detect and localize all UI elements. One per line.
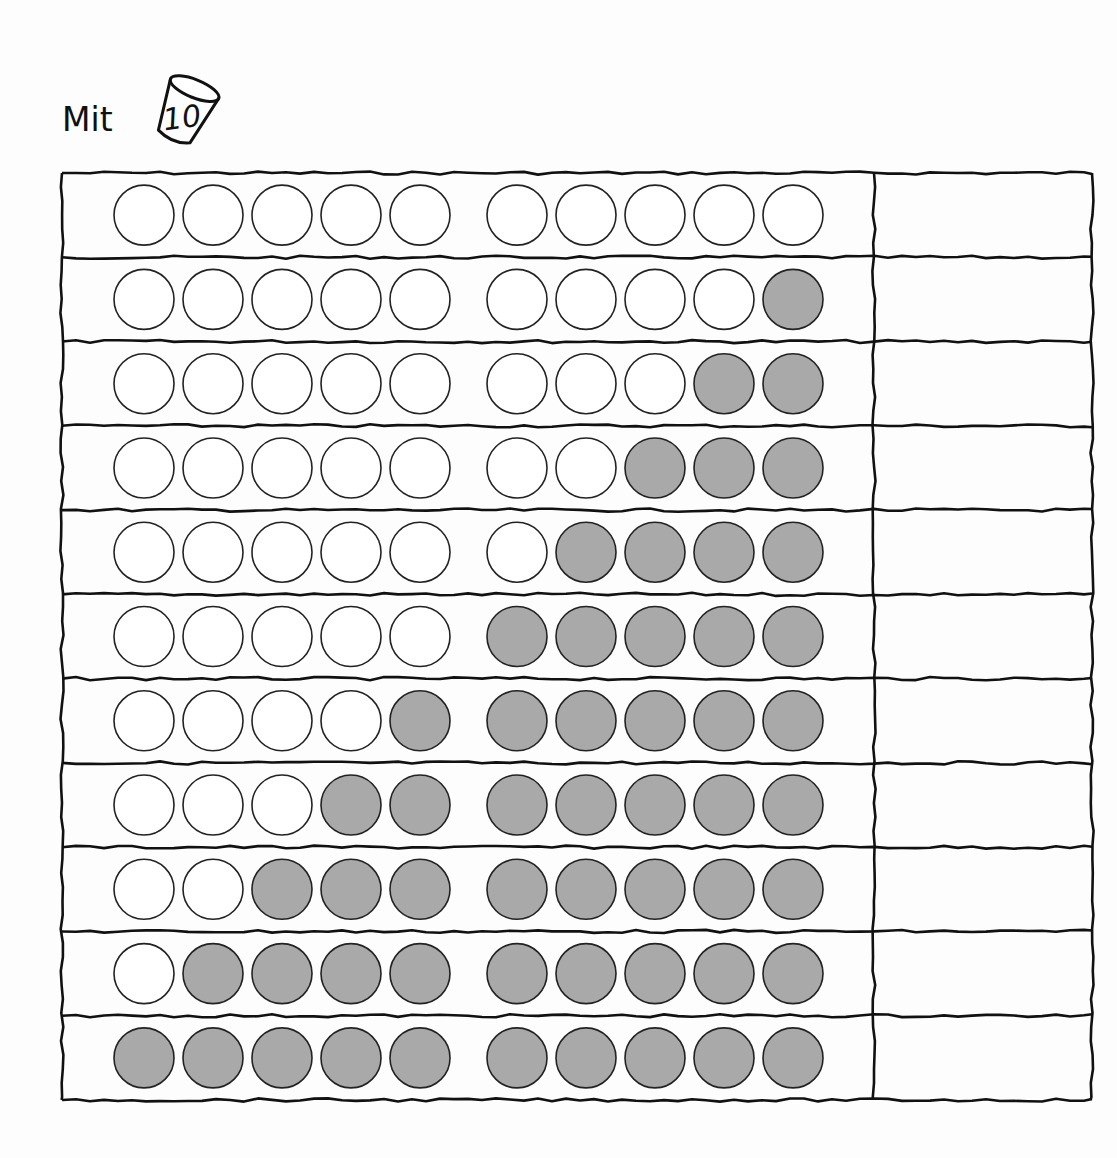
counter-filled <box>321 775 381 835</box>
answer-cell[interactable] <box>876 177 1094 255</box>
counter-empty <box>556 269 616 329</box>
counter-empty <box>390 522 450 582</box>
counter-empty <box>252 438 312 498</box>
counter-filled <box>390 859 450 919</box>
counter-filled <box>252 1028 312 1088</box>
counter-empty <box>252 185 312 245</box>
counter-empty <box>487 269 547 329</box>
table-row <box>114 438 823 498</box>
counter-empty <box>487 522 547 582</box>
counter-empty <box>694 269 754 329</box>
counter-empty <box>252 522 312 582</box>
row-divider <box>62 761 1092 764</box>
counter-empty <box>183 859 243 919</box>
answer-cell[interactable] <box>876 514 1094 592</box>
counter-filled <box>556 607 616 667</box>
counter-empty <box>114 438 174 498</box>
counter-empty <box>625 185 685 245</box>
counter-filled <box>321 944 381 1004</box>
counter-filled <box>114 1028 174 1088</box>
counter-filled <box>763 944 823 1004</box>
counter-filled <box>763 354 823 414</box>
counter-empty <box>114 522 174 582</box>
table-row <box>114 269 823 329</box>
counter-empty <box>252 775 312 835</box>
counter-filled <box>763 859 823 919</box>
counter-filled <box>487 607 547 667</box>
counter-filled <box>252 944 312 1004</box>
counter-filled <box>625 775 685 835</box>
counter-empty <box>390 607 450 667</box>
counter-filled <box>763 1028 823 1088</box>
counter-filled <box>556 859 616 919</box>
counter-filled <box>487 691 547 751</box>
answer-cell[interactable] <box>876 851 1094 929</box>
counter-empty <box>321 185 381 245</box>
counter-filled <box>625 944 685 1004</box>
counter-filled <box>390 691 450 751</box>
table-row <box>114 354 823 414</box>
counter-empty <box>625 354 685 414</box>
counter-empty <box>114 607 174 667</box>
counter-empty <box>556 438 616 498</box>
counter-filled <box>625 607 685 667</box>
table-row <box>114 1028 823 1088</box>
counter-empty <box>390 269 450 329</box>
table-row <box>114 944 823 1004</box>
counter-empty <box>183 185 243 245</box>
row-divider <box>62 593 1092 596</box>
row-divider <box>62 677 1092 680</box>
counter-filled <box>183 944 243 1004</box>
counter-filled <box>321 859 381 919</box>
answer-cell[interactable] <box>876 261 1094 339</box>
counter-filled <box>556 775 616 835</box>
counter-filled <box>694 1028 754 1088</box>
table-row <box>114 522 823 582</box>
counter-filled <box>487 775 547 835</box>
counter-filled <box>321 1028 381 1088</box>
counter-filled <box>625 859 685 919</box>
counter-filled <box>694 859 754 919</box>
answer-cell[interactable] <box>876 935 1094 1013</box>
row-divider <box>62 424 1092 427</box>
answer-cell[interactable] <box>876 767 1094 845</box>
counter-filled <box>763 607 823 667</box>
counter-filled <box>556 691 616 751</box>
counter-empty <box>321 691 381 751</box>
counter-empty <box>487 354 547 414</box>
counter-empty <box>487 185 547 245</box>
row-divider <box>62 930 1092 933</box>
counter-empty <box>114 859 174 919</box>
answer-cell[interactable] <box>876 683 1094 761</box>
counter-filled <box>390 1028 450 1088</box>
counter-empty <box>114 185 174 245</box>
row-divider <box>62 509 1092 512</box>
answer-cell[interactable] <box>876 598 1094 676</box>
answer-cell[interactable] <box>876 1020 1094 1098</box>
counter-filled <box>625 438 685 498</box>
counter-filled <box>694 522 754 582</box>
row-divider <box>62 172 1092 175</box>
counter-empty <box>556 354 616 414</box>
row-divider <box>62 256 1092 259</box>
counter-filled <box>487 1028 547 1088</box>
counter-empty <box>183 269 243 329</box>
answer-cell[interactable] <box>876 430 1094 508</box>
counter-filled <box>390 944 450 1004</box>
counter-empty <box>183 438 243 498</box>
table-left-border <box>60 173 63 1100</box>
counter-empty <box>114 354 174 414</box>
counter-filled <box>763 438 823 498</box>
counter-empty <box>114 775 174 835</box>
answer-cell[interactable] <box>876 346 1094 424</box>
counter-empty <box>183 354 243 414</box>
counter-filled <box>763 775 823 835</box>
counter-filled <box>487 859 547 919</box>
counter-empty <box>183 775 243 835</box>
counter-filled <box>625 522 685 582</box>
counter-filled <box>763 691 823 751</box>
counter-filled <box>625 691 685 751</box>
table-row <box>114 691 823 751</box>
counter-empty <box>114 269 174 329</box>
counter-empty <box>321 354 381 414</box>
